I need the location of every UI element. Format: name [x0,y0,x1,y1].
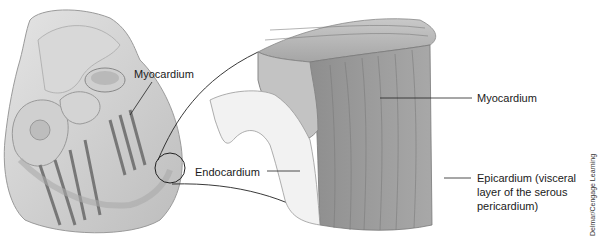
label-endocardium: Endocardium [195,166,260,179]
label-epicardium-line3: pericardium) [477,200,538,213]
label-myocardium-tissue: Myocardium [477,92,537,105]
label-epicardium-line1: Epicardium (visceral [477,172,576,185]
label-epicardium-line2: layer of the serous [477,186,568,199]
tissue-block [210,19,436,231]
image-credit: Delmar/Cengage Learning [589,154,596,236]
heart-wall-diagram: Myocardium Endocardium Myocardium Epicar… [0,0,600,248]
heart-cutaway [4,10,185,233]
label-myocardium-heart: Myocardium [134,68,194,81]
